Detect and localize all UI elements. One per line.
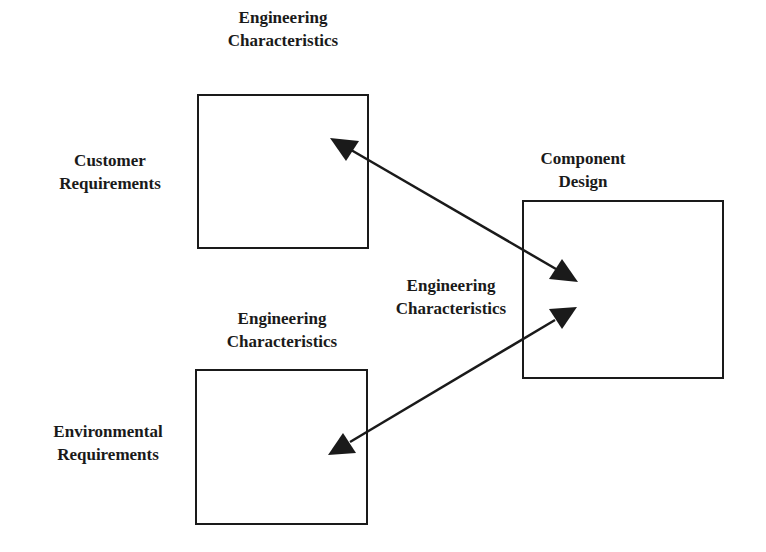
diagram-canvas: Engineering Characteristics Customer Req…: [0, 0, 766, 552]
arrow-customer-to-component: [330, 138, 578, 282]
arrow-environmental-to-component: [328, 307, 577, 455]
arrowhead-icon: [328, 433, 356, 455]
arrowhead-icon: [549, 307, 577, 329]
connector-arrows: [0, 0, 766, 552]
arrowhead-icon: [330, 138, 359, 161]
arrowhead-icon: [549, 259, 578, 282]
